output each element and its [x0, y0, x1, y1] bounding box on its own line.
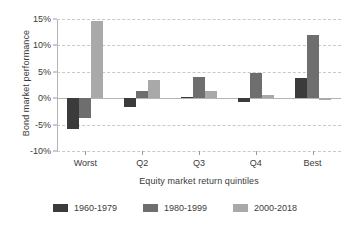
y-tick-label: 10%: [33, 40, 51, 50]
bar-group: Q2: [114, 19, 171, 151]
x-tick-label-q4: Q4: [250, 158, 262, 168]
x-tick-mark: [313, 151, 314, 155]
bar[interactable]: [250, 73, 262, 98]
legend-swatch-icon: [53, 204, 68, 212]
y-tick-label: 5%: [38, 67, 51, 77]
bar[interactable]: [136, 91, 148, 98]
y-tick-label: 15%: [33, 14, 51, 24]
bar-group: Worst: [57, 19, 114, 151]
y-tick-label: -10%: [30, 146, 51, 156]
legend-label: 1980-1999: [164, 203, 207, 213]
legend-item[interactable]: 1980-1999: [143, 203, 207, 213]
x-tick-mark: [199, 151, 200, 155]
bar[interactable]: [205, 91, 217, 98]
bar[interactable]: [148, 80, 160, 98]
bar[interactable]: [67, 98, 79, 129]
bar-groups: WorstQ2Q3Q4Best: [57, 19, 341, 151]
bar[interactable]: [181, 97, 193, 99]
bar[interactable]: [79, 98, 91, 118]
x-tick-label-best: Best: [304, 158, 322, 168]
x-tick-mark: [256, 151, 257, 155]
bar[interactable]: [307, 35, 319, 98]
bar-group: Q3: [171, 19, 228, 151]
legend-item[interactable]: 1960-1979: [53, 203, 117, 213]
bar[interactable]: [193, 77, 205, 98]
legend: 1960-19791980-19992000-2018: [0, 203, 350, 213]
x-tick-mark: [85, 151, 86, 155]
legend-swatch-icon: [143, 204, 158, 212]
bar[interactable]: [124, 98, 136, 106]
bar[interactable]: [262, 95, 274, 98]
bar[interactable]: [319, 98, 331, 100]
y-tick-label: 0%: [38, 93, 51, 103]
legend-label: 1960-1979: [74, 203, 117, 213]
bar[interactable]: [295, 78, 307, 98]
bar-group: Q4: [227, 19, 284, 151]
x-tick-label-q3: Q3: [193, 158, 205, 168]
bar[interactable]: [91, 21, 103, 98]
legend-item[interactable]: 2000-2018: [233, 203, 297, 213]
bar[interactable]: [238, 98, 250, 102]
x-tick-label-q2: Q2: [136, 158, 148, 168]
bond-equity-quintile-chart: Bond market performance 15%10%5%0%-5%-10…: [0, 0, 350, 225]
y-tick-label: -5%: [35, 120, 51, 130]
x-tick-label-worst: Worst: [74, 158, 97, 168]
x-axis-title: Equity market return quintiles: [57, 176, 341, 186]
legend-swatch-icon: [233, 204, 248, 212]
plot-area: 15%10%5%0%-5%-10% WorstQ2Q3Q4Best: [57, 19, 341, 151]
y-axis-title: Bond market performance: [21, 8, 31, 158]
bar-group: Best: [284, 19, 341, 151]
legend-label: 2000-2018: [254, 203, 297, 213]
x-tick-mark: [142, 151, 143, 155]
